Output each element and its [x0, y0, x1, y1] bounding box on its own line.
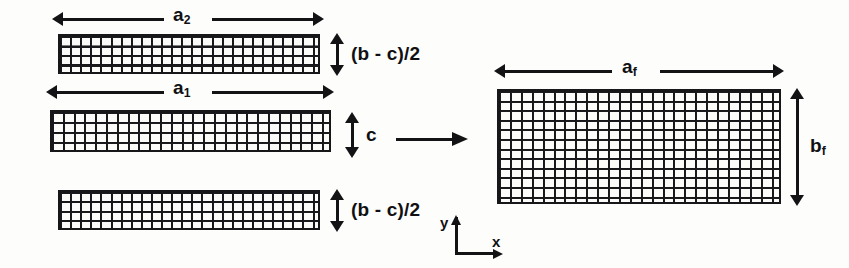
- mesh-assembled: [497, 89, 781, 204]
- mesh-strip-middle: [50, 110, 331, 152]
- arrowhead-right: [313, 12, 324, 26]
- mesh-strip-top-cells: [60, 36, 318, 72]
- arrowhead-up: [790, 88, 804, 99]
- dimension-bf: [790, 88, 804, 206]
- arrowhead-left: [46, 85, 57, 99]
- arrowhead-down: [790, 195, 804, 206]
- arrowhead-right: [773, 64, 784, 78]
- arrowhead-down: [345, 147, 359, 158]
- mesh-strip-bottom: [58, 190, 320, 230]
- dimension-bc2-top: [330, 33, 344, 76]
- figure-canvas: a2 (b - c)/2 a1 c (b - c)/2: [0, 0, 849, 268]
- dimension-bc2-bottom: [330, 189, 344, 232]
- x-axis-arrowhead: [493, 249, 503, 259]
- label-bc2-bottom: (b - c)/2: [351, 199, 420, 221]
- label-c: c: [366, 124, 377, 146]
- mesh-strip-bottom-cells: [60, 192, 318, 228]
- arrowhead-up: [345, 112, 359, 123]
- label-a2: a2: [173, 4, 191, 26]
- dimension-c: [345, 112, 359, 158]
- arrowhead-right: [323, 85, 334, 99]
- label-bf: bf: [810, 135, 826, 157]
- y-axis-arrowhead: [451, 215, 461, 225]
- mesh-assembled-cells: [499, 91, 779, 202]
- dimension-af: [494, 64, 784, 78]
- mesh-strip-top: [58, 34, 320, 74]
- arrowhead-down: [330, 221, 344, 232]
- arrowhead-up: [330, 33, 344, 44]
- arrowhead-up: [330, 189, 344, 200]
- arrowhead-down: [330, 65, 344, 76]
- assembly-arrow-head: [452, 132, 468, 146]
- label-y-axis: y: [440, 214, 449, 231]
- assembly-arrow: [396, 133, 468, 147]
- label-bc2-top: (b - c)/2: [351, 43, 420, 65]
- label-a1: a1: [173, 77, 191, 99]
- label-x-axis: x: [492, 233, 501, 250]
- arrowhead-left: [52, 12, 63, 26]
- assembly-arrow-shaft: [396, 138, 456, 141]
- mesh-strip-middle-cells: [52, 112, 329, 150]
- label-af: af: [622, 56, 637, 78]
- dimension-bf-line: [796, 95, 799, 199]
- arrowhead-left: [494, 64, 505, 78]
